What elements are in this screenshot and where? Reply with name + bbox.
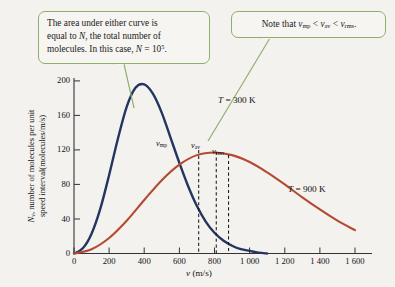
x-tick-label-1400: 1 400 — [310, 256, 329, 266]
y-tick-label-160: 160 — [57, 110, 70, 120]
y-tick-label-80: 80 — [61, 179, 70, 189]
x-tick-label-0: 0 — [72, 256, 76, 266]
callout-left-line2-c: , the total number of — [85, 31, 161, 41]
marker-label-vrms-sub: rms — [216, 150, 225, 156]
callout-right-tail — [208, 38, 270, 141]
curve-T900 — [74, 153, 355, 254]
series-label-T300-rest: = 300 K — [223, 95, 256, 105]
speed-distribution-figure: The area under either curve is equal to … — [0, 0, 395, 287]
x-tick-label-400: 400 — [138, 256, 151, 266]
x-tick-label-1000: 1 000 — [240, 256, 259, 266]
callout-right-prefix: Note that — [262, 19, 299, 29]
marker-label-vmp-sub: mp — [160, 142, 167, 148]
callout-area-note: The area under either curve is equal to … — [38, 11, 210, 64]
y-axis-label-symbol: N — [26, 217, 36, 223]
marker-label-vav: vav — [191, 141, 200, 150]
series-label-T900: T = 900 K — [288, 184, 326, 194]
callout-left-line1: The area under either curve is — [47, 18, 158, 28]
x-tick-label-600: 600 — [173, 256, 186, 266]
callout-right-vmp-sub: mp — [302, 22, 310, 29]
x-tick-marks — [74, 248, 355, 254]
y-tick-label-40: 40 — [61, 214, 70, 224]
x-axis-label-unit: (m/s) — [190, 268, 212, 278]
y-tick-label-200: 200 — [57, 75, 70, 85]
callout-speed-order-note: Note that vmp < vav < vrms. — [231, 11, 386, 38]
x-tick-label-1600: 1 600 — [345, 256, 364, 266]
x-tick-label-200: 200 — [103, 256, 116, 266]
callout-right-suffix: . — [354, 19, 356, 29]
vertical-marker-lines — [199, 150, 229, 254]
y-axis-label-line2: speed interval(molecules/m/s) — [37, 115, 47, 217]
callout-right-vrms-sub: rms — [345, 22, 354, 29]
callout-left-line3-c: = 10 — [142, 44, 161, 54]
marker-label-vrms: vrms — [212, 147, 224, 156]
callout-right-op2: < — [331, 19, 341, 29]
y-tick-label-120: 120 — [57, 144, 70, 154]
x-axis-label: v (m/s) — [186, 268, 212, 278]
x-tick-label-800: 800 — [208, 256, 221, 266]
y-tick-marks — [74, 81, 80, 254]
x-tick-label-1200: 1 200 — [275, 256, 294, 266]
callout-left-line3-d: . — [164, 44, 166, 54]
series-label-T900-rest: = 900 K — [293, 184, 326, 194]
series-label-T300: T = 300 K — [218, 95, 256, 105]
callout-left-line2-a: equal to — [47, 31, 79, 41]
curve-T300 — [74, 84, 267, 254]
marker-label-vmp: vmp — [156, 139, 167, 148]
y-axis-label: Nv, number of molecules per unit speed i… — [26, 71, 48, 261]
y-axis-label-symbol-sub: v — [30, 214, 36, 217]
callout-left-line3-a: molecules. In this case, — [47, 44, 136, 54]
marker-label-vav-sub: av — [195, 144, 200, 150]
y-tick-label-0: 0 — [66, 248, 70, 258]
callout-right-op1: < — [311, 19, 321, 29]
y-axis-label-rest: , number of molecules per unit — [26, 109, 36, 213]
